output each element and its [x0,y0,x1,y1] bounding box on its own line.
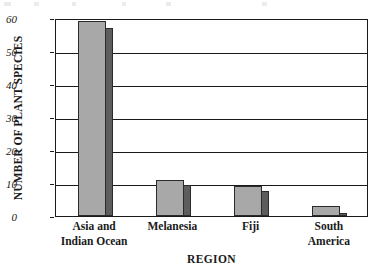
y-tick-mark [50,19,54,20]
bar-front-face [234,186,262,216]
y-tick-label: 0 [0,212,17,222]
plot-area [55,19,368,217]
y-tick-label: 30 [0,113,17,123]
x-axis-category-label: South America [269,219,383,249]
bar-group[interactable] [78,18,113,216]
y-tick-mark [50,217,54,218]
y-tick-label: 20 [0,146,17,156]
y-tick-label: 40 [0,80,17,90]
y-tick-mark [50,184,54,185]
bar-front-face [156,180,184,216]
bar-front-face [312,206,340,216]
bar-side-face [340,213,347,216]
y-tick-label: 60 [0,14,17,24]
scan-artifact [0,0,383,8]
bar-side-face [262,191,269,216]
y-tick-label: 10 [0,179,17,189]
y-tick-mark [50,118,54,119]
bar-chart-figure: NUMBER OF PLANT SPECIES 0102030405060 As… [0,0,383,274]
y-tick-label: 50 [0,47,17,57]
y-axis-tick-labels: 0102030405060 [0,19,50,217]
y-tick-mark [50,85,54,86]
bar-side-face [106,28,113,216]
y-tick-mark [50,151,54,152]
x-axis-title: REGION [55,253,368,265]
y-tick-mark [50,52,54,53]
bar-side-face [184,185,191,216]
bar-group[interactable] [156,18,191,216]
x-axis-category-labels: Asia and Indian OceanMelanesiaFijiSouth … [55,219,368,253]
bar-front-face [78,21,106,216]
bar-group[interactable] [234,18,269,216]
bar-group[interactable] [312,18,347,216]
